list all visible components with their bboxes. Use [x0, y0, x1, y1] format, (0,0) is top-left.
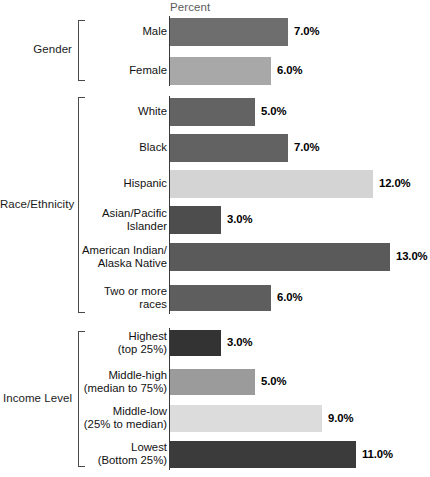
- bar-income-level-11: [170, 441, 356, 468]
- bar-value-label: 12.0%: [379, 177, 411, 189]
- group-label-race-ethnicity: Race/Ethnicity: [0, 198, 72, 210]
- bar-value-label: 3.0%: [227, 336, 252, 348]
- bar-value-label: 3.0%: [227, 213, 252, 225]
- group-label-gender: Gender: [0, 43, 72, 55]
- bar-category-label: Two or moreraces: [67, 285, 167, 310]
- bar-category-label: White: [67, 105, 167, 118]
- bar-category-label-line1: American Indian/: [82, 244, 167, 256]
- bar-income-level-9: [170, 369, 255, 395]
- bar-value-label: 5.0%: [261, 375, 286, 387]
- bar-category-label-line1: Lowest: [131, 441, 167, 453]
- bar-value-label: 6.0%: [277, 291, 302, 303]
- bar-category-label-line1: Asian/Pacific: [102, 207, 167, 219]
- bar-category-label-line1: Middle-high: [108, 369, 167, 381]
- bar-category-label-line2: (25% to median): [67, 418, 167, 431]
- bar-category-label-line1: Middle-low: [113, 405, 167, 417]
- group-bracket-race-ethnicity: [78, 97, 85, 313]
- bar-income-level-8: [170, 330, 221, 356]
- bar-race-ethnicity-7: [170, 285, 271, 311]
- bar-value-label: 5.0%: [261, 105, 286, 117]
- bar-category-label-line1: Two or more: [104, 285, 167, 297]
- bar-category-label-line1: White: [138, 105, 167, 117]
- bar-race-ethnicity-5: [170, 206, 221, 234]
- bar-category-label-line2: Alaska Native: [67, 257, 167, 270]
- bar-race-ethnicity-4: [170, 170, 373, 198]
- bar-category-label-line1: Male: [142, 25, 167, 37]
- bar-category-label-line1: Highest: [129, 330, 167, 342]
- bar-category-label-line2: (Bottom 25%): [67, 454, 167, 467]
- bar-race-ethnicity-3: [170, 134, 288, 162]
- bar-value-label: 7.0%: [294, 141, 319, 153]
- axis-title-percent: Percent: [170, 1, 210, 13]
- bar-category-label: Middle-high(median to 75%): [67, 369, 167, 394]
- bar-category-label-line2: (median to 75%): [67, 382, 167, 395]
- bar-value-label: 11.0%: [362, 448, 393, 460]
- bar-race-ethnicity-6: [170, 243, 390, 271]
- bar-category-label: Black: [67, 141, 167, 154]
- bar-category-label: Male: [67, 25, 167, 38]
- bar-category-label-line2: (top 25%): [67, 343, 167, 356]
- axis-line-segment-1: [169, 96, 170, 314]
- bar-chart: Percent GenderRace/EthnicityIncome Level…: [0, 0, 430, 477]
- bar-income-level-10: [170, 405, 322, 432]
- bar-race-ethnicity-2: [170, 98, 255, 126]
- bar-value-label: 9.0%: [328, 412, 353, 424]
- bar-category-label: Middle-low(25% to median): [67, 405, 167, 430]
- bar-category-label-line2: races: [67, 298, 167, 311]
- bar-category-label: American Indian/Alaska Native: [67, 244, 167, 269]
- bar-category-label-line2: Islander: [67, 220, 167, 233]
- bar-category-label: Highest(top 25%): [67, 330, 167, 355]
- bar-category-label-line1: Hispanic: [124, 177, 167, 189]
- bar-category-label-line1: Black: [139, 141, 167, 153]
- bar-value-label: 6.0%: [277, 64, 302, 76]
- bar-category-label-line1: Female: [129, 64, 167, 76]
- bar-category-label: Female: [67, 64, 167, 77]
- bar-category-label: Hispanic: [67, 177, 167, 190]
- bar-value-label: 7.0%: [294, 25, 319, 37]
- bar-gender-0: [170, 18, 288, 46]
- bar-gender-1: [170, 57, 271, 85]
- bar-value-label: 13.0%: [396, 250, 428, 262]
- bar-category-label: Asian/PacificIslander: [67, 207, 167, 232]
- bar-category-label: Lowest(Bottom 25%): [67, 441, 167, 466]
- group-label-income-level: Income Level: [0, 392, 72, 404]
